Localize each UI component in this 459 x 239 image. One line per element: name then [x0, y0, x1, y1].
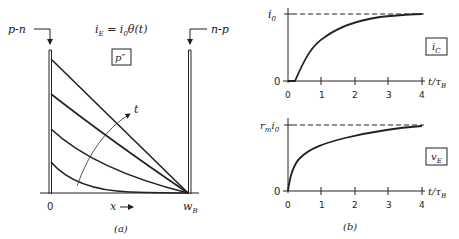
carrier-profiles: [51, 59, 188, 193]
wb-label: wB: [183, 200, 198, 215]
panel-a: p-n n-p iE = i0θ(t) p″: [8, 23, 229, 234]
svg-text:2: 2: [352, 200, 358, 210]
time-arrow-icon: [77, 114, 130, 186]
svg-text:3: 3: [386, 90, 392, 100]
caption-a: (a): [114, 223, 128, 234]
pn-junction-label: p-n: [8, 23, 26, 36]
svg-text:4: 4: [419, 90, 425, 100]
panel-b-bottom: rmi0 0 0 1 2 3 4 t/τB vE (b): [260, 118, 447, 232]
x-tick-labels: 0 1 2 3 4: [285, 90, 425, 100]
np-junction-label: n-p: [211, 23, 229, 36]
profile-t4: [51, 59, 188, 193]
ve-curve: [288, 126, 422, 191]
left-wall: [49, 50, 52, 194]
ve-box-label: vE: [431, 151, 442, 165]
svg-text:1: 1: [319, 200, 325, 210]
x-tick-labels: 0 1 2 3 4: [285, 200, 425, 210]
ic-curve: [288, 14, 422, 81]
figure: p-n n-p iE = i0θ(t) p″: [0, 0, 459, 239]
profile-t2: [51, 129, 188, 193]
np-arrow-icon: [190, 29, 207, 44]
svg-text:0: 0: [285, 90, 291, 100]
y-zero-label: 0: [274, 76, 280, 87]
p-box-label: p″: [115, 52, 125, 63]
x-axis-label: t/τB: [428, 76, 446, 90]
right-wall: [189, 50, 192, 194]
y-max-label: i0: [268, 8, 277, 23]
y-zero-label: 0: [274, 186, 280, 197]
pn-arrow-icon: [34, 29, 50, 44]
caption-b: (b): [343, 221, 357, 232]
x-origin-label: 0: [47, 201, 53, 212]
panel-b-top: i0 0 0 1 2 3 4 t/τB iC: [268, 8, 447, 100]
svg-text:2: 2: [352, 90, 358, 100]
time-label: t: [134, 103, 139, 116]
svg-text:3: 3: [386, 200, 392, 210]
svg-text:1: 1: [319, 90, 325, 100]
y-max-label: rmi0: [260, 120, 280, 134]
ic-box-label: iC: [432, 41, 441, 55]
x-axis-label: t/τB: [428, 186, 446, 200]
x-axis-label: x: [110, 200, 117, 213]
equation: iE = i0θ(t): [95, 23, 148, 38]
svg-text:0: 0: [285, 200, 291, 210]
svg-text:4: 4: [419, 200, 425, 210]
